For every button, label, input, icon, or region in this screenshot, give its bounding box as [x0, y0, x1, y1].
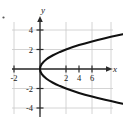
y-tick-label-neg4: -4	[26, 103, 34, 113]
coordinate-plane: -2 2 4 6 4 2 -2 -4 x y	[0, 0, 123, 124]
x-axis-label: x	[112, 64, 117, 74]
y-tick-label-2: 2	[29, 45, 33, 55]
y-axis-label: y	[40, 5, 45, 15]
y-tick-label-neg2: -2	[26, 84, 33, 94]
x-tick-label-2: 2	[64, 73, 68, 83]
x-tick-label-neg2: -2	[10, 73, 17, 83]
figure-background	[0, 0, 123, 124]
graph-figure: -2 2 4 6 4 2 -2 -4 x y	[0, 0, 123, 124]
stray-speck-mark	[2, 16, 4, 18]
x-tick-label-6: 6	[90, 73, 94, 83]
